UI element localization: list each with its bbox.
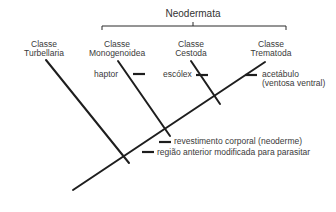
taxon-name: Monogenoidea — [89, 49, 145, 58]
character-haptor: haptor — [94, 70, 118, 79]
clade-label: Neodermata — [165, 9, 220, 18]
taxon-label-monogenoidea: Classe Monogenoidea — [89, 40, 145, 58]
neodermata-bracket — [102, 22, 286, 30]
cladogram-lines — [0, 0, 336, 212]
branch-cestoda — [191, 61, 220, 104]
taxon-name: Turbellaria — [24, 49, 64, 58]
character-regiao: região anterior modificada para parasita… — [157, 148, 310, 157]
main-stem — [73, 62, 265, 190]
taxon-label-cestoda: Classe Cestoda — [175, 40, 207, 58]
character-escolex: escólex — [163, 70, 192, 79]
character-acetabulo: acetábulo (ventosa ventral) — [262, 70, 325, 88]
character-revestimento: revestimento corporal (neoderme) — [174, 137, 302, 146]
taxon-label-trematoda: Classe Trematoda — [251, 40, 292, 58]
taxon-label-turbellaria: Classe Turbellaria — [24, 40, 64, 58]
taxon-name: Cestoda — [175, 49, 207, 58]
taxon-name: Trematoda — [251, 49, 292, 58]
cladogram: Neodermata Classe Turbellaria Classe Mon… — [0, 0, 336, 212]
